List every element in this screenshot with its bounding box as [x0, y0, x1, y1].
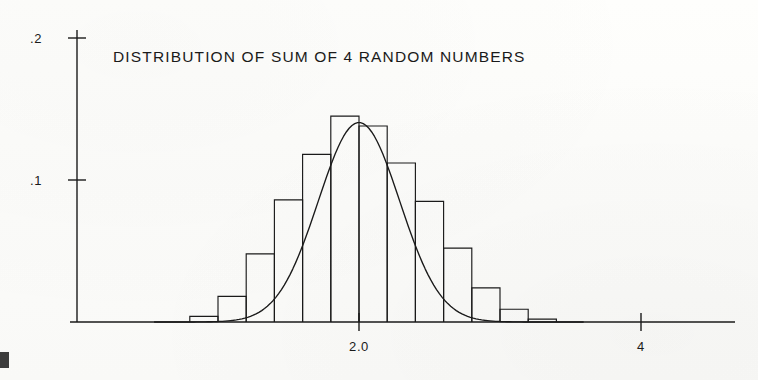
x-axis-tick-label-2.0: 2.0: [349, 339, 369, 354]
histogram-bar: [415, 201, 443, 322]
histogram-bar: [387, 163, 415, 322]
histogram-bar: [331, 116, 359, 322]
y-axis-tick-label-0.2: .2: [30, 31, 42, 46]
scan-artifact: [0, 352, 9, 368]
distribution-chart: .2 .1 2.0 4 DISTRIBUTION OF SUM OF 4 RAN…: [0, 0, 758, 380]
x-axis-tick-label-4: 4: [637, 339, 645, 354]
chart-title: DISTRIBUTION OF SUM OF 4 RANDOM NUMBERS: [113, 48, 526, 65]
histogram-bar: [303, 154, 331, 322]
histogram-bar: [472, 288, 500, 322]
normal-curve: [155, 123, 584, 322]
histogram-bar: [274, 200, 302, 322]
y-axis-tick-label-0.1: .1: [30, 173, 42, 188]
figure-page: .2 .1 2.0 4 DISTRIBUTION OF SUM OF 4 RAN…: [0, 0, 758, 380]
histogram-bar: [500, 309, 528, 322]
histogram-bars: [190, 116, 557, 322]
